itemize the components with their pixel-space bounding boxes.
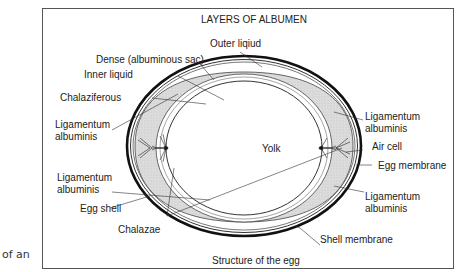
figure-caption: Structure of the egg [212, 255, 300, 266]
yolk [166, 81, 322, 215]
egg-structure-diagram: LAYERS OF ALBUMEN Outer liqiud Dense (al… [0, 0, 466, 272]
label-inner-liquid: Inner liquid [84, 69, 133, 80]
label-air-cell: Air cell [372, 141, 402, 152]
label-ligamentum-right-bot-2: albuminis [365, 203, 407, 214]
label-yolk: Yolk [262, 143, 282, 154]
label-egg-membrane: Egg membrane [378, 160, 447, 171]
label-ligamentum-left-bot-1: Ligamentum [57, 172, 112, 183]
label-ligamentum-right-bot-1: Ligamentum [365, 191, 420, 202]
label-dense-albumen: Dense (albuminous sac) [96, 54, 204, 65]
label-chalaziferous: Chalaziferous [60, 92, 121, 103]
label-outer-liquid: Outer liqiud [210, 38, 261, 49]
label-egg-shell: Egg shell [80, 203, 121, 214]
label-ligamentum-right-top-1: Ligamentum [365, 111, 420, 122]
label-ligamentum-left-top-2: albuminis [55, 131, 97, 142]
label-shell-membrane: Shell membrane [320, 234, 393, 245]
figure-title: LAYERS OF ALBUMEN [201, 14, 307, 25]
label-ligamentum-right-top-2: albuminis [365, 123, 407, 134]
label-ligamentum-left-bot-2: albuminis [57, 184, 99, 195]
label-ligamentum-left-top-1: Ligamentum [55, 119, 110, 130]
label-chalazae: Chalazae [118, 224, 161, 235]
